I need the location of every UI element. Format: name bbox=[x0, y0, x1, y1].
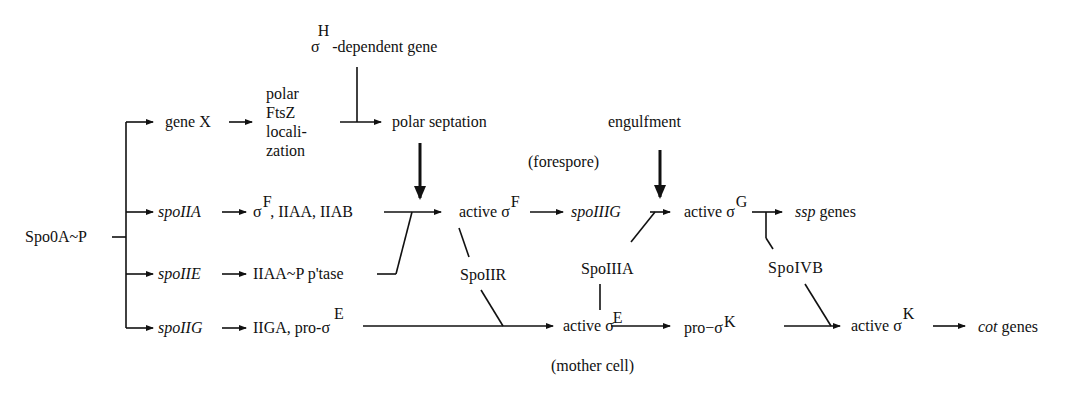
node-iiga-pro-sigma-e: IIGA, pro-σE bbox=[253, 319, 344, 337]
node-spoiir: SpoIIR bbox=[460, 266, 506, 284]
iiga-pro-label: IIGA, pro- bbox=[253, 319, 321, 336]
superscript-h: H bbox=[318, 22, 330, 39]
node-cot-genes: cot genes bbox=[978, 318, 1038, 336]
node-active-sigma-g: active σG bbox=[684, 203, 747, 221]
node-iiaa-p-ptase: IIAA~P p'tase bbox=[253, 265, 343, 283]
cot-italic: cot bbox=[978, 318, 998, 335]
active-label: active bbox=[459, 203, 501, 220]
genes-label: genes bbox=[815, 203, 855, 220]
superscript-f: F bbox=[511, 193, 520, 210]
ssp-italic: ssp bbox=[795, 203, 815, 220]
iiaa-iiab-label: , IIAA, IIAB bbox=[270, 203, 353, 220]
pro-label: pro− bbox=[684, 319, 714, 336]
node-spoiig: spoIIG bbox=[158, 319, 202, 337]
superscript-k: K bbox=[903, 305, 915, 322]
connector-lines bbox=[0, 0, 1073, 397]
sigma-h-label: -dependent gene bbox=[332, 38, 437, 55]
label-mother-cell: (mother cell) bbox=[551, 357, 634, 375]
label-forespore: (forespore) bbox=[528, 153, 599, 171]
node-pro-sigma-k: pro−σK bbox=[684, 319, 736, 337]
sigma-symbol: σ bbox=[714, 319, 723, 336]
superscript-k: K bbox=[724, 313, 736, 330]
node-active-sigma-f: active σF bbox=[459, 203, 520, 221]
sigma-symbol: σ bbox=[321, 319, 330, 336]
node-spoiia: spoIIA bbox=[158, 203, 201, 221]
sporulation-pathway-diagram: Spo0A~P gene X polar FtsZ locali- zation… bbox=[0, 0, 1073, 397]
node-polar-ftsz-localization: polar FtsZ locali- zation bbox=[266, 84, 307, 160]
node-ssp-genes: ssp genes bbox=[795, 203, 856, 221]
node-spoiiig: spoIIIG bbox=[571, 203, 621, 221]
node-polar-septation: polar septation bbox=[392, 113, 487, 131]
node-spoiie: spoIIE bbox=[158, 265, 201, 283]
ftsz-line-1: polar bbox=[266, 84, 307, 103]
active-label: active bbox=[851, 317, 893, 334]
ftsz-line-3: locali- bbox=[266, 122, 307, 141]
node-spoivb: SpoIVB bbox=[768, 259, 823, 277]
node-engulfment: engulfment bbox=[608, 113, 681, 131]
node-sigma-f-iiaa-iiab: σF, IIAA, IIAB bbox=[253, 203, 353, 221]
node-active-sigma-k: active σK bbox=[851, 317, 914, 335]
superscript-g: G bbox=[736, 193, 748, 210]
node-active-sigma-e: active σE bbox=[531, 317, 593, 335]
sigma-symbol: σ bbox=[893, 317, 902, 334]
superscript-e: E bbox=[613, 309, 623, 326]
ftsz-line-4: zation bbox=[266, 141, 307, 160]
node-spo0a-p: Spo0A~P bbox=[25, 228, 87, 246]
sigma-symbol: σ bbox=[501, 203, 510, 220]
superscript-f: F bbox=[263, 193, 271, 210]
sigma-symbol: σ bbox=[726, 203, 735, 220]
sigma-symbol: σ bbox=[311, 38, 320, 55]
sigma-symbol: σ bbox=[253, 203, 262, 220]
node-gene-x: gene X bbox=[165, 113, 211, 131]
active-label: active bbox=[684, 203, 726, 220]
superscript-e: E bbox=[334, 305, 344, 322]
node-sigma-h-dependent-gene: σH-dependent gene bbox=[311, 38, 437, 56]
ftsz-line-2: FtsZ bbox=[266, 103, 307, 122]
active-label: active bbox=[563, 317, 605, 334]
node-spoiiia: SpoIIIA bbox=[581, 260, 633, 278]
genes-label: genes bbox=[998, 318, 1038, 335]
